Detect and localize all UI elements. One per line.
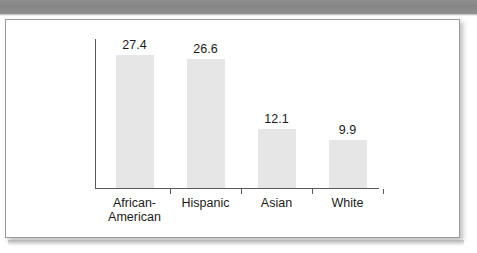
page-bottom-shadow [8,240,464,246]
bar [329,140,367,188]
bar-value-label: 27.4 [104,38,166,52]
bar-chart-plot-area: 27.4African- American26.6Hispanic12.1Asi… [6,20,461,239]
x-axis-line [95,188,379,189]
figure-panel: 27.4African- American26.6Hispanic12.1Asi… [5,19,460,238]
top-banner-edge [0,14,477,16]
x-axis-tick [383,189,384,194]
top-banner [0,0,477,14]
bar [187,59,225,188]
x-axis-tick [312,189,313,194]
x-axis-tick [241,189,242,194]
bar [258,129,296,188]
bar-value-label: 12.1 [246,112,308,126]
bar-value-label: 26.6 [175,42,237,56]
bar-value-label: 9.9 [317,123,379,137]
category-label: White [304,196,391,210]
bar [116,55,154,188]
y-axis-line [95,39,96,189]
x-axis-tick [170,189,171,194]
